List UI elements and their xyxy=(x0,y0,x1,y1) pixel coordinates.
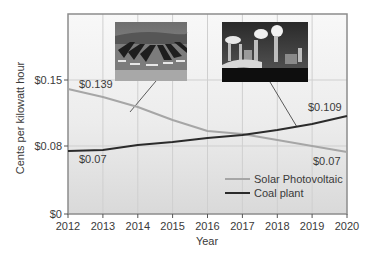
x-tick-labels: 2012 2013 2014 2015 2016 2017 2018 2019 … xyxy=(56,220,359,232)
faded-caption xyxy=(28,246,348,256)
x-tick-label: 2015 xyxy=(160,220,184,232)
coal-plant-photo xyxy=(222,22,308,82)
legend-label-solar: Solar Photovoltaic xyxy=(254,173,343,185)
solar-panel-photo xyxy=(115,22,187,81)
x-tick-label: 2020 xyxy=(335,220,359,232)
annotation-solar-start: $0.139 xyxy=(79,78,113,90)
x-tick-label: 2012 xyxy=(56,220,80,232)
y-tick-label-0: $0 xyxy=(50,208,62,220)
y-tick-label-015: $0.15 xyxy=(34,74,62,86)
x-tick-label: 2014 xyxy=(126,220,150,232)
annotation-coal-end: $0.109 xyxy=(308,101,342,113)
x-tick-label: 2017 xyxy=(230,220,254,232)
annotation-coal-start: $0.07 xyxy=(79,153,107,165)
annotation-solar-end: $0.07 xyxy=(313,155,341,167)
x-tick-label: 2013 xyxy=(91,220,115,232)
chart: $0.15 $0.08 $0 2012 2013 2014 2015 2016 … xyxy=(0,0,372,258)
y-tick-label-008: $0.08 xyxy=(34,140,62,152)
x-tick-label: 2016 xyxy=(195,220,219,232)
y-axis-title: Cents per kilowatt hour xyxy=(14,61,26,174)
x-tick-label: 2019 xyxy=(300,220,324,232)
legend-label-coal: Coal plant xyxy=(254,187,304,199)
x-tick-label: 2018 xyxy=(265,220,289,232)
